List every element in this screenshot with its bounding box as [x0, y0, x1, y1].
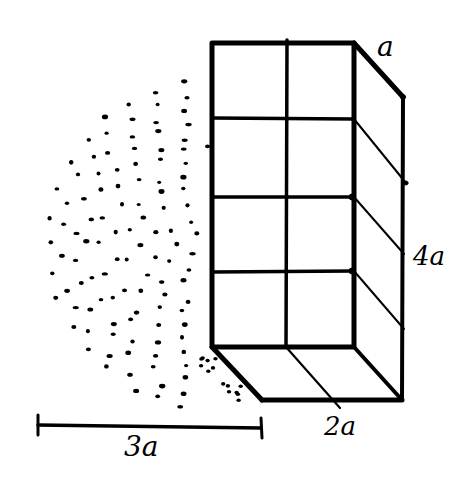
- prism-front-face: [212, 43, 354, 347]
- label-height: 4a: [413, 243, 445, 269]
- grid-line: [286, 40, 287, 347]
- grid-vertex: [401, 95, 406, 100]
- diagram-canvas: [0, 0, 476, 484]
- grid-vertex: [404, 181, 408, 185]
- prism-edge: [402, 97, 403, 400]
- grid-line: [212, 118, 354, 119]
- rectangular-prism: [212, 40, 408, 408]
- grid-vertex: [349, 268, 355, 274]
- grid-line: [212, 271, 354, 272]
- label-depth: a: [377, 33, 394, 61]
- side-grid-line: [354, 271, 404, 329]
- label-radius: 3a: [124, 433, 159, 461]
- side-grid-line: [354, 119, 406, 183]
- prism-edge: [354, 347, 402, 400]
- label-width: 2a: [324, 413, 356, 439]
- side-grid-line: [354, 197, 404, 254]
- grid-vertex: [349, 194, 355, 200]
